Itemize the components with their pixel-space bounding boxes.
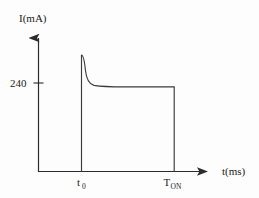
y-axis-label: I(mA) — [19, 12, 47, 25]
y-tick-240-label: 240 — [10, 77, 27, 89]
xtick-ton-subscript: ON — [171, 182, 182, 191]
xtick-ton-label: T — [164, 176, 171, 188]
current-waveform-figure: I(mA) t(ms) 240 t 0 T ON — [0, 0, 259, 198]
chart-canvas: I(mA) t(ms) 240 t 0 T ON — [0, 0, 259, 198]
current-curve — [82, 55, 174, 172]
x-axis-label: t(ms) — [222, 165, 246, 178]
xtick-t0-label: t — [77, 176, 80, 188]
xtick-t0-subscript: 0 — [82, 182, 86, 191]
